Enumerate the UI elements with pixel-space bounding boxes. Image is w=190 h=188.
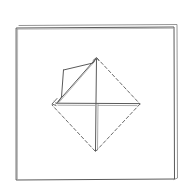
back-sheet [19,25,178,180]
left-tip-crimp-detail [54,101,57,104]
diagram-svg [0,0,190,188]
center-creases [56,59,139,151]
vertical-crease-shadow [98,104,99,150]
edge-left-top-solid [56,59,96,105]
left-tip-crimp [52,99,57,106]
front-sheet-top-sketch [17,28,173,29]
edge-right-bottom-dashed [96,104,140,151]
folded-flap [52,58,99,106]
flap-left-edge [58,70,64,102]
edge-top-right-dashed [97,58,140,104]
vertical-crease [96,59,97,151]
origami-diagram [0,0,190,188]
back-sheet-edge [19,25,178,180]
edge-bottom-left-dashed [52,105,95,151]
